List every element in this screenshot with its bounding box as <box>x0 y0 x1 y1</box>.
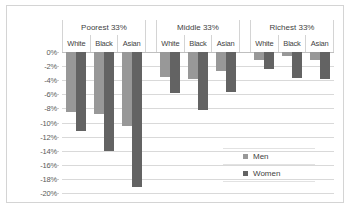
bar-women <box>132 52 142 187</box>
bar-women <box>226 52 236 92</box>
bar-women <box>170 52 180 93</box>
bar-men <box>310 52 320 60</box>
group-header-2: Middle 33%WhiteBlackAsian <box>156 20 240 52</box>
group-title: Poorest 33% <box>62 20 146 35</box>
group-header-row: Poorest 33%WhiteBlackAsianMiddle 33%Whit… <box>62 20 334 52</box>
bar-men <box>188 52 198 79</box>
y-axis-tick-mark <box>56 179 59 180</box>
bar-men <box>160 52 170 77</box>
y-axis-tick-mark <box>56 94 59 95</box>
y-axis-tick-mark <box>56 137 59 138</box>
bar-men <box>122 52 132 126</box>
y-axis-tick-mark <box>56 123 59 124</box>
legend-swatch-icon <box>243 154 248 159</box>
y-axis-tick-mark <box>56 193 59 194</box>
category-label-row: WhiteBlackAsian <box>156 35 240 52</box>
bar-women <box>104 52 114 151</box>
y-axis-tick-mark <box>56 52 59 53</box>
bar-men <box>216 52 226 71</box>
y-axis-tick-mark <box>56 80 59 81</box>
legend-swatch-icon <box>243 171 248 176</box>
category-label: Asian <box>305 35 334 52</box>
chart-frame: 0%-2%-4%-6%-8%-10%-12%-14%-16%-18%-20% P… <box>6 5 344 203</box>
y-axis-tick-label: -10% <box>40 118 57 127</box>
y-axis-tick-mark <box>56 151 59 152</box>
gridline <box>62 193 334 194</box>
bar-men <box>94 52 104 114</box>
y-axis-tick-label: -18% <box>40 174 57 183</box>
y-axis: 0%-2%-4%-6%-8%-10%-12%-14%-16%-18%-20% <box>15 46 59 199</box>
y-axis-tick-mark <box>56 108 59 109</box>
group-header-3: Richest 33%WhiteBlackAsian <box>250 20 334 52</box>
y-axis-tick-label: -14% <box>40 146 57 155</box>
category-label-row: WhiteBlackAsian <box>62 35 146 52</box>
y-axis-tick-label: -20% <box>40 189 57 198</box>
y-axis-tick-label: -12% <box>40 132 57 141</box>
bar-men <box>66 52 76 112</box>
y-axis-tick-mark <box>56 66 59 67</box>
legend-item-men: Men <box>223 148 315 165</box>
bar-men <box>254 52 264 60</box>
category-label-row: WhiteBlackAsian <box>250 35 334 52</box>
bar-women <box>264 52 274 69</box>
group-header-1: Poorest 33%WhiteBlackAsian <box>62 20 146 52</box>
group-title: Middle 33% <box>156 20 240 35</box>
legend-item-women: Women <box>223 165 315 182</box>
group-title: Richest 33% <box>250 20 334 35</box>
bar-group <box>62 52 146 193</box>
bar-women <box>320 52 330 79</box>
category-label: Black <box>90 35 118 52</box>
category-label: Black <box>278 35 306 52</box>
category-label: White <box>62 35 90 52</box>
category-label: Black <box>184 35 212 52</box>
legend-label: Men <box>253 152 269 161</box>
category-label: Asian <box>211 35 240 52</box>
category-label: White <box>156 35 184 52</box>
y-axis-tick-label: -16% <box>40 160 57 169</box>
category-label: White <box>250 35 278 52</box>
chart-legend: MenWomen <box>223 148 315 182</box>
bar-men <box>282 52 292 56</box>
bar-women <box>198 52 208 110</box>
y-axis-tick-mark <box>56 165 59 166</box>
bar-women <box>292 52 302 78</box>
legend-label: Women <box>253 169 280 178</box>
category-label: Asian <box>117 35 146 52</box>
bar-women <box>76 52 86 131</box>
